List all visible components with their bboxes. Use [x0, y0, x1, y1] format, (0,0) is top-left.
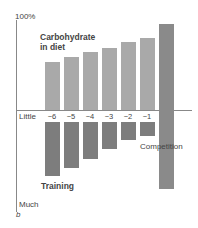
tick-minus6: −6 — [44, 112, 60, 121]
carb-bar-minus3 — [102, 48, 117, 110]
training-bar-minus1 — [140, 122, 155, 136]
carb-label-1: Carbohydrate — [40, 32, 95, 42]
y-top-label: 100% — [15, 12, 35, 21]
training-label: Training — [41, 181, 74, 191]
carb-bar-minus5 — [64, 57, 79, 110]
carb-bar-minus1 — [140, 38, 155, 110]
training-bar-minus6 — [45, 122, 60, 176]
carb-bar-minus6 — [45, 62, 60, 110]
training-bar-minus2 — [121, 122, 136, 140]
training-bar-minus3 — [102, 122, 117, 149]
little-label: Little — [19, 112, 36, 121]
tick-minus5: −5 — [63, 112, 79, 121]
much-label: Much — [19, 200, 39, 209]
training-bar-minus4 — [83, 122, 98, 159]
y-axis — [16, 20, 17, 212]
carb-bar-minus4 — [83, 52, 98, 110]
tick-minus4: −4 — [82, 112, 98, 121]
tick-minus1: −1 — [139, 112, 155, 121]
carb-label-2: in diet — [40, 42, 65, 52]
competition-label: Competition — [140, 142, 183, 151]
training-bar-minus5 — [64, 122, 79, 168]
carb-bar-minus2 — [121, 42, 136, 110]
panel-label: b — [16, 210, 20, 219]
tick-minus2: −2 — [120, 112, 136, 121]
competition-bar — [159, 24, 174, 189]
tick-minus3: −3 — [101, 112, 117, 121]
